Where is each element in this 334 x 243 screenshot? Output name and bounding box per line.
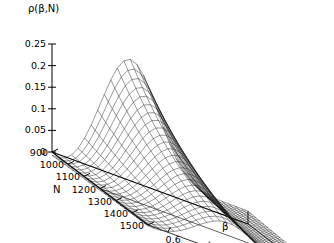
z-tick-0.05: 0.05	[6, 124, 46, 135]
plot-canvas	[0, 0, 334, 243]
y-tick-1000: 1000	[34, 159, 64, 170]
z-tick-0.15: 0.15	[6, 81, 46, 92]
x-axis-label: β	[222, 221, 228, 232]
y-tick-1400: 1400	[98, 208, 128, 219]
z-tick-0.25: 0.25	[6, 38, 46, 49]
surface-plot: ρ(β,N) 00.050.10.150.20.25 9001000110012…	[0, 0, 334, 243]
plot-title: ρ(β,N)	[28, 3, 59, 14]
z-tick-0.2: 0.2	[6, 60, 46, 71]
y-tick-1100: 1100	[50, 171, 80, 182]
y-axis-label: N	[53, 184, 60, 195]
y-tick-900: 900	[18, 147, 48, 158]
y-tick-1300: 1300	[82, 196, 112, 207]
y-tick-1500: 1500	[114, 220, 144, 231]
y-tick-1200: 1200	[66, 184, 96, 195]
x-tick-0.6: 0.6	[166, 234, 181, 243]
z-tick-0.1: 0.1	[6, 103, 46, 114]
